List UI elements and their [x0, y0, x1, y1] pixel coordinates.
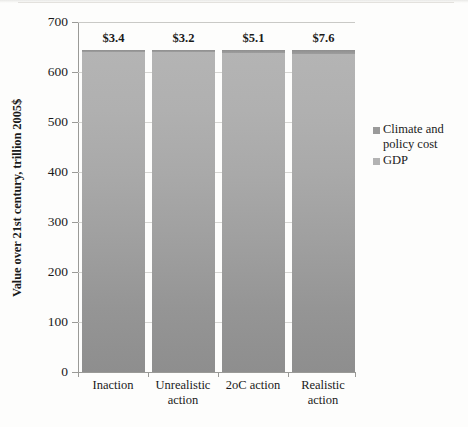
x-tick-mark: [355, 372, 356, 377]
legend-swatch-icon: [373, 158, 380, 165]
x-category-label-2oc-action: 2oC action: [218, 378, 288, 393]
x-category-label-unrealistic-action: Unrealistic action: [148, 378, 218, 408]
legend-swatch-icon: [373, 127, 380, 134]
x-tick-mark: [148, 372, 149, 377]
bar-group-unrealistic-action[interactable]: $3.2: [152, 22, 215, 372]
chart-figure: Value over 21st century, trillion 2005$ …: [0, 0, 468, 427]
y-tick-label-400: 400: [28, 165, 68, 179]
bar-segment-gdp[interactable]: [222, 53, 285, 372]
x-tick-mark: [78, 372, 79, 377]
bar-stack[interactable]: [152, 50, 215, 372]
x-category-label-realistic-action: Realistic action: [288, 378, 358, 408]
y-tick-label-200: 200: [28, 265, 68, 279]
bar-segment-gdp[interactable]: [292, 54, 355, 372]
y-tick-label-500: 500: [28, 115, 68, 129]
legend-item-label: GDP: [383, 153, 408, 168]
bar-value-label: $3.4: [82, 31, 145, 46]
bar-stack[interactable]: [82, 50, 145, 372]
bar-group-inaction[interactable]: $3.4: [82, 22, 145, 372]
scan-edge-line: [18, 2, 454, 3]
bar-stack[interactable]: [292, 50, 355, 372]
x-category-label-line1: Inaction: [78, 378, 148, 393]
x-tick-mark: [288, 372, 289, 377]
x-category-label-inaction: Inaction: [78, 378, 148, 393]
bar-group-2oc-action[interactable]: $5.1: [222, 22, 285, 372]
x-tick-mark: [218, 372, 219, 377]
legend-item-climate-and-policy-cost[interactable]: Climate and policy cost: [373, 122, 465, 152]
y-tick-label-300: 300: [28, 215, 68, 229]
bar-segment-gdp[interactable]: [82, 52, 145, 372]
legend: Climate and policy cost GDP: [373, 122, 465, 169]
bar-value-label: $3.2: [152, 31, 215, 46]
x-category-label-line1: Realistic: [288, 378, 358, 393]
bar-value-label: $5.1: [222, 31, 285, 46]
bar-group-realistic-action[interactable]: $7.6: [292, 22, 355, 372]
y-axis-title: Value over 21st century, trillion 2005$: [6, 22, 28, 374]
x-axis-line: [78, 372, 356, 373]
plot-area: $3.4 $3.2 $5.1 $7.6: [78, 22, 355, 372]
bar-value-label: $7.6: [292, 31, 355, 46]
x-category-label-line1: Unrealistic: [148, 378, 218, 393]
bar-stack[interactable]: [222, 50, 285, 372]
y-tick-label-100: 100: [28, 315, 68, 329]
x-category-label-line2: action: [148, 393, 218, 408]
y-tick-label-700: 700: [28, 15, 68, 29]
x-category-label-line2: action: [288, 393, 358, 408]
bar-segment-gdp[interactable]: [152, 52, 215, 372]
y-tick-label-600: 600: [28, 65, 68, 79]
x-category-label-line1: 2oC action: [218, 378, 288, 393]
legend-item-label: Climate and policy cost: [383, 122, 444, 152]
legend-item-gdp[interactable]: GDP: [373, 153, 465, 168]
y-tick-label-0: 0: [28, 365, 68, 379]
